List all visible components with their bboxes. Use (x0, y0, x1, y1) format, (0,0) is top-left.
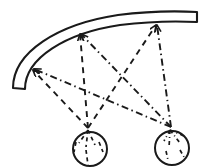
hatch-mark (169, 130, 170, 148)
ray-right-circle-to-right-target (157, 25, 171, 127)
hatch-mark (86, 150, 88, 165)
diagram-canvas (0, 0, 208, 167)
source-circle-right-hatches (164, 130, 184, 160)
ray-right-circle-to-middle-target (81, 34, 171, 127)
diagram-svg (0, 0, 208, 167)
ray-left-circle-to-left-target (33, 70, 88, 128)
ray-left-circle-to-right-target (88, 25, 156, 128)
hatch-mark (166, 151, 168, 160)
ray-left-circle-to-middle-target (80, 34, 88, 128)
source-circle-right (155, 130, 189, 165)
source-circle-right-outline (155, 131, 189, 165)
hatch-mark (99, 142, 103, 152)
ray-right-circle-to-left-target (34, 69, 171, 127)
source-circle-left (73, 130, 107, 166)
hatch-mark (180, 150, 184, 157)
